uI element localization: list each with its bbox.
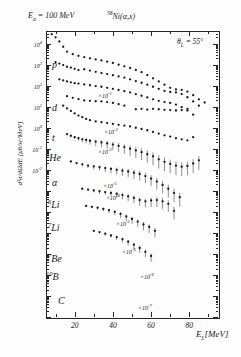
species-label-6Li: 6Li	[48, 199, 60, 210]
data-point	[142, 223, 144, 225]
data-point	[129, 91, 131, 93]
data-point	[169, 102, 171, 104]
data-point	[140, 82, 142, 84]
data-point	[163, 83, 165, 85]
data-point	[70, 81, 72, 83]
data-point	[127, 170, 129, 172]
data-point	[104, 167, 106, 169]
data-point	[77, 98, 79, 100]
data-point	[186, 96, 188, 98]
data-point	[123, 146, 125, 148]
data-point	[150, 255, 152, 257]
data-point	[121, 238, 123, 240]
data-point	[123, 77, 125, 79]
data-point	[163, 161, 165, 163]
data-point	[100, 72, 102, 74]
scale-factor-annotation: ×10-4	[106, 193, 120, 201]
data-point	[116, 169, 118, 171]
species-label-p: p	[52, 60, 57, 70]
data-point	[121, 194, 123, 196]
data-point	[135, 69, 137, 71]
data-point	[158, 100, 160, 102]
data-point	[146, 96, 148, 98]
data-point	[89, 84, 91, 86]
data-point	[169, 163, 171, 165]
data-point	[81, 163, 83, 165]
data-point	[138, 199, 140, 201]
scale-factor-annotation: ×10-3	[98, 147, 112, 155]
data-point	[98, 166, 100, 168]
data-point	[91, 206, 93, 208]
data-point	[119, 213, 121, 215]
data-point	[74, 136, 76, 138]
data-point	[148, 226, 150, 228]
data-point	[192, 136, 194, 138]
scale-factor-annotation: ×10-6	[140, 272, 154, 280]
data-point	[114, 211, 116, 213]
data-point	[66, 66, 68, 68]
data-point	[110, 168, 112, 170]
data-point	[117, 124, 119, 126]
data-point	[158, 80, 160, 82]
data-point	[123, 65, 125, 67]
data-point	[100, 100, 102, 102]
data-point	[74, 82, 76, 84]
data-point	[186, 108, 188, 110]
data-point	[83, 68, 85, 70]
data-point	[175, 164, 177, 166]
data-point	[198, 98, 200, 100]
data-point	[138, 247, 140, 249]
scale-factor-annotation: ×10-6	[122, 247, 136, 255]
data-point	[154, 230, 156, 232]
data-series-6Li	[66, 133, 200, 176]
data-point	[89, 119, 91, 121]
figure-panel: Eα = 100 MeV 58Ni(α,x) θL = 55° d²σ/dΩdE…	[0, 0, 241, 357]
data-point	[198, 105, 200, 107]
data-point	[161, 184, 163, 186]
data-point	[158, 88, 160, 90]
data-point	[100, 141, 102, 143]
data-point	[123, 105, 125, 107]
data-point	[83, 56, 85, 58]
data-point	[146, 74, 148, 76]
data-point	[135, 127, 137, 129]
data-point	[112, 102, 114, 104]
data-point	[77, 114, 79, 116]
data-point	[133, 197, 135, 199]
data-point	[87, 188, 89, 190]
data-point	[146, 83, 148, 85]
data-point	[106, 142, 108, 144]
data-series-7Be	[81, 188, 175, 220]
data-point	[81, 138, 83, 140]
data-point	[74, 68, 76, 70]
data-point	[131, 218, 133, 220]
data-point	[89, 69, 91, 71]
data-point	[152, 108, 154, 110]
data-point	[112, 123, 114, 125]
data-point	[129, 78, 131, 80]
data-point	[95, 100, 97, 102]
scale-factor-annotation: ×10-1	[98, 91, 112, 99]
data-point	[77, 82, 79, 84]
data-point	[102, 208, 104, 210]
species-label-C: C	[58, 296, 65, 306]
data-series-C	[93, 230, 153, 262]
scale-factor-annotation: ×10-7	[138, 303, 152, 311]
data-point	[58, 40, 60, 42]
data-point	[77, 69, 79, 71]
data-point	[77, 55, 79, 57]
data-point	[106, 73, 108, 75]
data-point	[203, 101, 205, 103]
data-point	[81, 116, 83, 118]
data-point	[146, 153, 148, 155]
data-point	[192, 114, 194, 116]
data-point	[54, 36, 56, 38]
data-point	[108, 209, 110, 211]
data-point	[123, 90, 125, 92]
species-label-t: t	[52, 133, 55, 143]
data-point	[158, 108, 160, 110]
data-point	[62, 105, 64, 107]
data-point	[98, 231, 100, 233]
data-point	[137, 220, 139, 222]
data-point	[127, 241, 129, 243]
